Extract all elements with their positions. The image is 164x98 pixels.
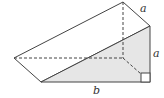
prism-diagram: a a b: [0, 0, 164, 98]
label-top-a: a: [140, 2, 147, 15]
label-right-a: a: [153, 47, 160, 60]
label-bottom-b: b: [93, 84, 100, 97]
right-angle-marker: [141, 73, 150, 82]
